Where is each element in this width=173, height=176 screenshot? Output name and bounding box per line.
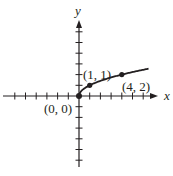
point-marker xyxy=(87,83,92,88)
point-label-4-2: (4, 2) xyxy=(122,79,150,94)
y-axis-arrow-icon xyxy=(76,20,82,28)
y-axis-label: y xyxy=(73,3,81,18)
point-label-origin: (0, 0) xyxy=(44,101,72,116)
x-axis-arrow-icon xyxy=(150,93,158,99)
x-axis-label: x xyxy=(163,88,170,103)
point-label-1-1: (1, 1) xyxy=(83,67,111,82)
point-marker xyxy=(76,93,82,99)
point-marker xyxy=(119,72,124,77)
graph-canvas: x y (0, 0) (1, 1) (4, 2) xyxy=(0,0,173,176)
